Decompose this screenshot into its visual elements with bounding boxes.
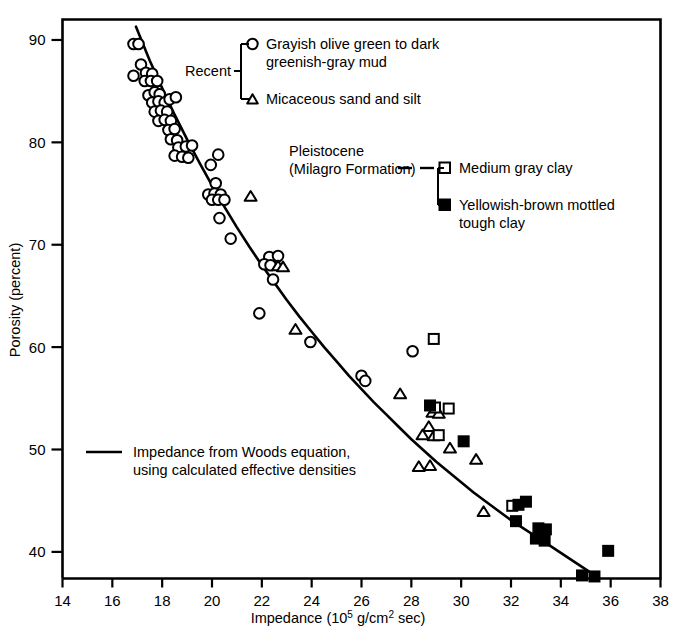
data-point-open-square (444, 404, 454, 414)
y-tick-label: 40 (29, 543, 46, 560)
data-point-open-circle (205, 160, 216, 171)
data-point-open-circle (183, 152, 194, 163)
data-point-filled-square (511, 516, 521, 526)
porosity-impedance-figure: 14161820222426283032343638 405060708090 … (0, 0, 677, 633)
legend-label-mottled-clay-line2: tough clay (459, 215, 526, 231)
legend-label-woods-equation-line1: Impedance from Woods equation, (133, 444, 350, 460)
legend-label-mottled-clay-line1: Yellowish-brown mottled (459, 197, 615, 213)
legend-pleistocene-bracket-label-line2: (Milagro Formation) (289, 161, 416, 177)
data-point-open-circle (219, 194, 230, 205)
legend-label-sand-silt: Micaceous sand and silt (266, 91, 421, 107)
legend-recent-bracket-label: Recent (185, 63, 231, 79)
data-point-open-circle (169, 124, 180, 135)
data-point-open-circle (305, 337, 316, 348)
y-axis-title: Porosity (percent) (7, 243, 23, 357)
x-tick-label: 20 (204, 592, 221, 609)
data-point-open-circle (133, 39, 144, 50)
data-point-filled-square (541, 524, 551, 534)
data-point-open-circle (152, 76, 163, 87)
x-tick-label: 34 (552, 592, 569, 609)
data-point-filled-square (521, 497, 531, 507)
x-tick-label: 14 (54, 592, 71, 609)
data-point-open-circle (360, 376, 371, 387)
x-tick-label: 30 (453, 592, 470, 609)
y-tick-label: 50 (29, 441, 46, 458)
x-tick-label: 24 (303, 592, 320, 609)
legend-marker-filled-square (440, 200, 451, 211)
y-tick-label: 90 (29, 31, 46, 48)
data-point-filled-square (577, 570, 587, 580)
data-point-open-circle (214, 213, 225, 224)
data-point-filled-square (459, 436, 469, 446)
y-tick-label: 70 (29, 236, 46, 253)
y-tick-label: 60 (29, 339, 46, 356)
x-tick-label: 38 (652, 592, 669, 609)
data-point-filled-square (589, 571, 599, 581)
data-point-filled-square (425, 400, 435, 410)
data-point-filled-square (540, 536, 550, 546)
legend-label-mud-line1: Grayish olive green to dark (266, 36, 440, 52)
data-point-open-circle (210, 178, 221, 189)
data-point-open-circle (213, 149, 224, 160)
data-point-open-circle (171, 92, 182, 103)
legend-label-medium-gray-clay: Medium gray clay (459, 160, 573, 176)
data-point-open-circle (225, 233, 236, 244)
legend-pleistocene-bracket-label-line1: Pleistocene (289, 143, 364, 159)
data-point-open-circle (268, 274, 279, 285)
x-tick-label: 26 (353, 592, 370, 609)
data-point-open-circle (407, 346, 418, 357)
legend-label-mud-line2: greenish-gray mud (266, 54, 387, 70)
data-point-filled-square (603, 546, 613, 556)
x-tick-label: 32 (503, 592, 520, 609)
data-point-open-circle (187, 140, 198, 151)
x-tick-label: 18 (154, 592, 171, 609)
data-point-open-circle (254, 308, 265, 319)
legend-label-woods-equation-line2: using calculated effective densities (133, 462, 356, 478)
data-point-open-circle (128, 71, 139, 82)
y-tick-label: 80 (29, 134, 46, 151)
scatter-plot-svg: 14161820222426283032343638 405060708090 … (0, 0, 677, 633)
data-point-open-square (429, 334, 439, 344)
x-tick-label: 22 (253, 592, 270, 609)
data-point-open-square (434, 430, 444, 440)
x-tick-label: 16 (104, 592, 121, 609)
x-tick-label: 36 (602, 592, 619, 609)
x-tick-label: 28 (403, 592, 420, 609)
x-axis-title: Impedance (105 g/cm2 sec) (251, 609, 426, 626)
